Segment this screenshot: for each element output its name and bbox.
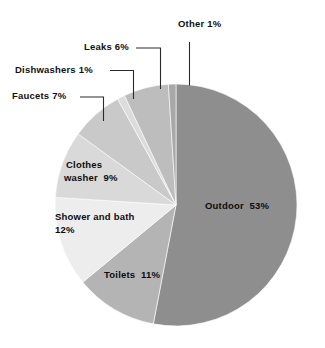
slice-label-clothes-washer-line1: Clothes <box>66 159 102 171</box>
slice-callout-faucets: Faucets 7% <box>12 90 66 101</box>
slice-label-shower-and-bath-line1: Shower and bath <box>55 211 135 223</box>
slice-callout-leaks: Leaks 6% <box>84 41 129 52</box>
pie-chart-figure: Other 1% Leaks 6% Dishwashers 1% Faucets… <box>0 0 325 348</box>
slice-label-toilets: Toilets 11% <box>104 269 160 281</box>
slice-label-outdoor: Outdoor 53% <box>205 200 269 212</box>
slice-label-clothes-washer-line2: washer 9% <box>64 172 118 184</box>
slice-label-shower-and-bath-line2: 12% <box>55 224 75 236</box>
pie-chart-svg <box>0 0 325 348</box>
leader-line-leaks <box>136 48 161 89</box>
slice-callout-dishwashers: Dishwashers 1% <box>15 64 93 75</box>
slice-callout-other: Other 1% <box>178 18 221 29</box>
